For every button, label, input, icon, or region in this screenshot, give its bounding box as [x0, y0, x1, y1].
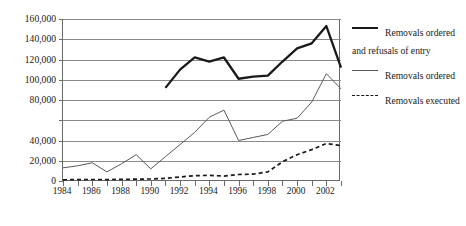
y-axis-tick-label: 80,000 [0, 95, 56, 105]
legend-item: Removals executed [352, 90, 464, 108]
x-axis-tick-label: 1994 [192, 186, 224, 196]
plot-area [62, 19, 340, 181]
y-axis-tick-label: 20,000 [0, 156, 56, 166]
x-axis-tick-label: 1986 [75, 186, 107, 196]
y-axis-tick-label: 100,000 [0, 75, 56, 85]
y-axis-tick-label: 140,000 [0, 34, 56, 44]
x-axis-tick-label: 1984 [46, 186, 78, 196]
x-axis-tick-label: 1990 [134, 186, 166, 196]
legend-item-label: Removals executed [385, 95, 460, 106]
y-axis-tick-label: 120,000 [0, 55, 56, 65]
series-line [63, 144, 341, 180]
series-line [63, 74, 341, 172]
chart-container: 020,00040,00080,000100,000120,000140,000… [0, 0, 466, 226]
series-group [63, 19, 341, 181]
x-axis-tick-label: 1996 [222, 186, 254, 196]
legend-item-label: Removals ordered [385, 70, 455, 81]
x-axis-tick-label: 1992 [163, 186, 195, 196]
y-axis-tick-label: 0 [0, 176, 56, 186]
x-axis-tick-label: 1988 [105, 186, 137, 196]
x-axis-tick-label: 2002 [309, 186, 341, 196]
legend-line-icon [352, 70, 378, 71]
legend-item: Removals ordered and refusals of entry [352, 22, 464, 58]
x-axis-tick-label: 2000 [280, 186, 312, 196]
y-axis-tick-label: 40,000 [0, 136, 56, 146]
x-axis-tick-label: 1998 [251, 186, 283, 196]
legend-item: Removals ordered [352, 65, 464, 83]
series-line [165, 26, 341, 88]
chart-legend: Removals ordered and refusals of entry R… [352, 22, 464, 115]
y-axis-tick-label: 160,000 [0, 14, 56, 24]
legend-line-icon [352, 27, 378, 29]
legend-line-icon [352, 95, 378, 96]
legend-item-label: Removals ordered and refusals of entry [352, 27, 455, 56]
